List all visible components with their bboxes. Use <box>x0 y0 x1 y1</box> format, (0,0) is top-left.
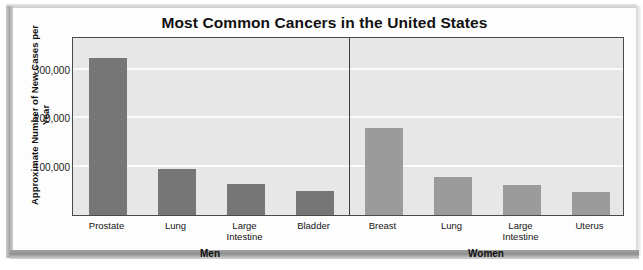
panel-label-women: Women <box>348 248 624 259</box>
gridline <box>73 165 623 167</box>
gridline <box>73 116 623 118</box>
frame-bevel-right <box>636 6 641 256</box>
chart-title: Most Common Cancers in the United States <box>13 14 636 32</box>
bar <box>365 128 403 215</box>
bar <box>158 169 196 215</box>
y-tick-label: 200,000 <box>16 113 70 124</box>
panel-label-men: Men <box>72 248 348 259</box>
y-tick-label: 100,000 <box>16 162 70 173</box>
panel-divider <box>349 38 350 215</box>
bar <box>89 58 127 215</box>
category-label: Uterus <box>545 221 635 232</box>
figure-frame: Most Common Cancers in the United States… <box>0 0 643 270</box>
bar <box>503 185 541 215</box>
bar <box>434 177 472 215</box>
plot-area <box>72 37 624 216</box>
chart-canvas: Most Common Cancers in the United States… <box>13 8 636 250</box>
gridline <box>73 68 623 70</box>
frame-bevel-left <box>6 6 13 258</box>
bar <box>296 191 334 215</box>
y-tick-label: 300,000 <box>16 65 70 76</box>
bar <box>227 184 265 215</box>
bar <box>572 192 610 215</box>
